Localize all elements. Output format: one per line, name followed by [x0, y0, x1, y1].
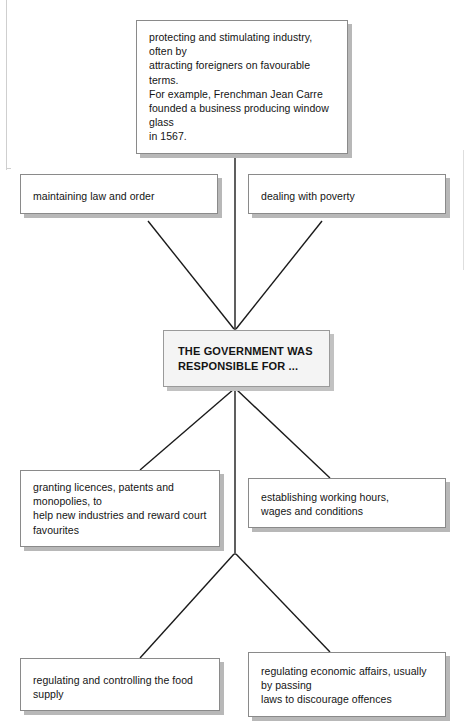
central-node-line: THE GOVERNMENT WAS	[178, 344, 317, 359]
branch-box-food-supply: regulating and controlling the food supp…	[20, 658, 220, 711]
connector-center-to-licences	[140, 389, 234, 470]
branch-box-licences: granting licences, patents and monopolie…	[20, 470, 220, 547]
branch-text-line: dealing with poverty	[261, 189, 434, 203]
connector-law-order-to-center	[148, 221, 234, 329]
branch-box-industry: protecting and stimulating industry, oft…	[136, 20, 348, 154]
central-node-line: RESPONSIBLE FOR ...	[178, 359, 317, 374]
branch-text-line: attracting foreigners on favourable term…	[149, 58, 336, 86]
branch-text-line: regulating and controlling the food supp…	[33, 673, 208, 701]
connector-trunk-to-food-supply	[140, 554, 234, 658]
branch-text-line: maintaining law and order	[33, 189, 206, 203]
branch-text-line: protecting and stimulating industry, oft…	[149, 30, 336, 58]
connector-center-to-working-hours	[236, 389, 330, 478]
branch-box-poverty: dealing with poverty	[248, 174, 446, 214]
diagram-page: protecting and stimulating industry, oft…	[0, 0, 470, 721]
branch-text-line: laws to discourage offences	[261, 692, 434, 706]
connector-trunk-to-economic	[236, 554, 330, 652]
branch-box-law-order: maintaining law and order	[20, 174, 218, 214]
branch-box-economic-affairs: regulating economic affairs, usually by …	[248, 652, 446, 717]
branch-text-line: founded a business producing window glas…	[149, 101, 336, 129]
branch-text-line: in 1567.	[149, 129, 336, 143]
branch-text-line: wages and conditions	[261, 504, 434, 518]
branch-text-line: help new industries and reward court	[33, 508, 208, 522]
branch-text-line: regulating economic affairs, usually by …	[261, 664, 434, 692]
branch-text-line: favourites	[33, 523, 208, 537]
branch-box-working-hours: establishing working hours, wages and co…	[248, 478, 446, 528]
branch-text-line: granting licences, patents and monopolie…	[33, 480, 208, 508]
connector-poverty-to-center	[236, 221, 322, 329]
central-node: THE GOVERNMENT WAS RESPONSIBLE FOR ...	[163, 330, 330, 387]
branch-text-line: establishing working hours,	[261, 490, 434, 504]
branch-text-line: For example, Frenchman Jean Carre	[149, 87, 336, 101]
